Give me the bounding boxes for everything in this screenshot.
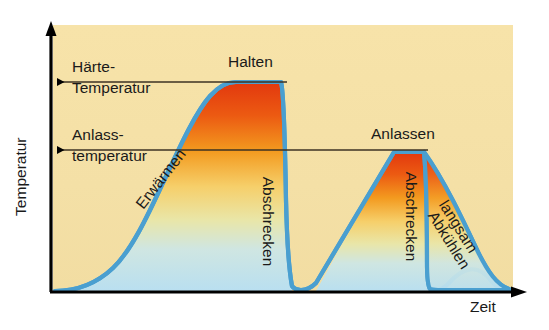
stage-label-anlassen: Anlassen xyxy=(371,125,435,142)
anlass-temperatur-label-line2: temperatur xyxy=(72,147,147,164)
stage-label-abschrecken-first: Abschrecken xyxy=(259,177,276,267)
stage-label-halten: Halten xyxy=(228,53,273,70)
x-axis-label: Zeit xyxy=(470,298,496,315)
diagram-canvas xyxy=(0,0,549,330)
anlass-temperatur-label-line1: Anlass- xyxy=(72,126,124,143)
x-axis-arrowhead xyxy=(511,287,527,298)
stage-label-abschrecken-second: Abschrecken xyxy=(402,172,419,262)
haerte-temperatur-label-line1: Härte- xyxy=(72,58,115,75)
y-axis-label: Temperatur xyxy=(12,127,29,227)
heat-treatment-diagram: Temperatur Zeit Härte- Temperatur Anlass… xyxy=(0,0,549,330)
haerte-temperatur-label-line2: Temperatur xyxy=(72,79,150,96)
